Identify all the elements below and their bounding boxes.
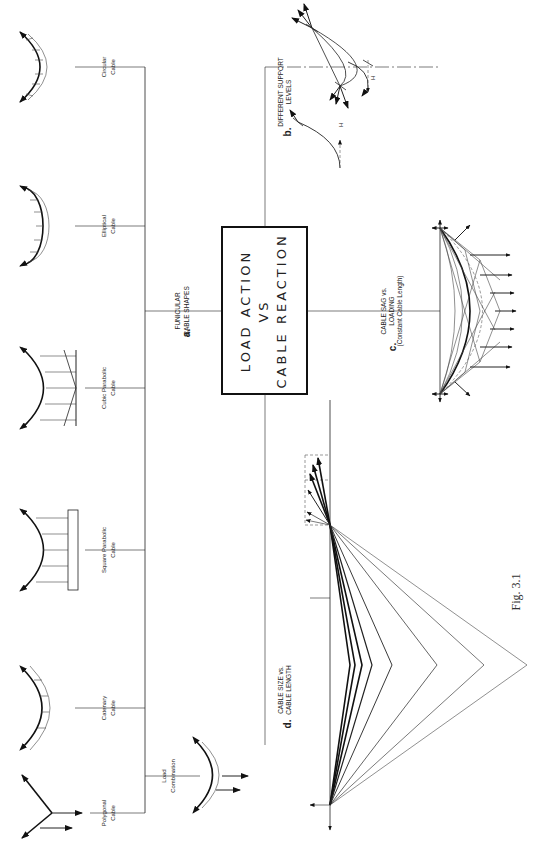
label-section-a: FUNICULAR CABLE SHAPES a. bbox=[174, 286, 192, 338]
svg-text:CABLE SAG vs.: CABLE SAG vs. bbox=[380, 287, 387, 334]
label-section-c: CABLE SAG vs. LOADING (Constant Cable Le… bbox=[380, 276, 404, 352]
force-h-2: H bbox=[370, 76, 376, 80]
svg-text:c.: c. bbox=[387, 343, 398, 352]
square-parabolic-cable-drawing bbox=[20, 509, 78, 591]
svg-text:DIFFERENT SUPPORT: DIFFERENT SUPPORT bbox=[277, 57, 284, 126]
label-section-d: CABLE SIZE vs. CABLE LENGTH d. bbox=[277, 665, 293, 728]
circular-cable-drawing bbox=[20, 32, 47, 102]
svg-text:Catenary: Catenary bbox=[101, 696, 107, 720]
svg-text:Cubic Parabolic: Cubic Parabolic bbox=[101, 367, 107, 409]
center-box-line3: CABLE REACTION bbox=[274, 233, 289, 388]
center-box-line2: VS bbox=[256, 299, 271, 322]
svg-text:Cable: Cable bbox=[110, 700, 116, 716]
svg-text:Cable: Cable bbox=[110, 542, 116, 558]
svg-text:CABLE SIZE vs.: CABLE SIZE vs. bbox=[277, 666, 284, 714]
svg-text:a.: a. bbox=[181, 329, 192, 338]
svg-text:(Constant Cable Length): (Constant Cable Length) bbox=[396, 276, 404, 347]
catenary-cable-drawing bbox=[20, 666, 50, 750]
cubic-parabolic-cable-drawing bbox=[20, 347, 76, 429]
center-box-line1: LOAD ACTION bbox=[238, 250, 253, 372]
svg-text:Load: Load bbox=[161, 769, 167, 782]
svg-text:LOADING: LOADING bbox=[388, 296, 395, 325]
label-section-b: DIFFERENT SUPPORT LEVELS b. bbox=[277, 57, 293, 136]
center-box: LOAD ACTION VS CABLE REACTION bbox=[222, 227, 307, 394]
polygonal-cable-drawing bbox=[22, 775, 82, 838]
svg-text:CABLE LENGTH: CABLE LENGTH bbox=[285, 665, 292, 715]
svg-text:d.: d. bbox=[282, 719, 293, 728]
elliptical-cable-drawing bbox=[20, 186, 49, 266]
svg-text:Elliptical: Elliptical bbox=[101, 215, 107, 237]
svg-text:Cable: Cable bbox=[110, 59, 116, 75]
svg-text:Cable: Cable bbox=[110, 805, 116, 821]
svg-text:LEVELS: LEVELS bbox=[285, 79, 292, 104]
different-support-levels-drawing: H H bbox=[290, 4, 376, 168]
box-connectors bbox=[265, 67, 440, 745]
figure-caption: Fig. 3.1 bbox=[509, 573, 523, 610]
section-a-tree bbox=[75, 67, 222, 813]
svg-text:Cable: Cable bbox=[110, 218, 116, 234]
diagram-canvas: Circular Cable Elliptical Cable Cubic Pa… bbox=[0, 0, 554, 842]
svg-text:CABLE SHAPES: CABLE SHAPES bbox=[183, 286, 190, 336]
svg-text:Cable: Cable bbox=[110, 380, 116, 396]
cable-sag-vs-loading-drawing bbox=[432, 220, 516, 402]
force-h-1: H bbox=[338, 123, 344, 127]
svg-text:Polygonal: Polygonal bbox=[101, 800, 107, 826]
svg-text:b.: b. bbox=[282, 127, 293, 136]
svg-text:Square Parabolic: Square Parabolic bbox=[101, 527, 107, 573]
svg-text:Fig. 3.1: Fig. 3.1 bbox=[509, 573, 523, 610]
svg-text:Circular: Circular bbox=[101, 57, 107, 78]
svg-text:Combination: Combination bbox=[170, 759, 176, 793]
cable-size-vs-length-drawing bbox=[305, 400, 527, 830]
svg-text:FUNICULAR: FUNICULAR bbox=[174, 292, 181, 330]
load-combination-drawing bbox=[193, 737, 248, 813]
